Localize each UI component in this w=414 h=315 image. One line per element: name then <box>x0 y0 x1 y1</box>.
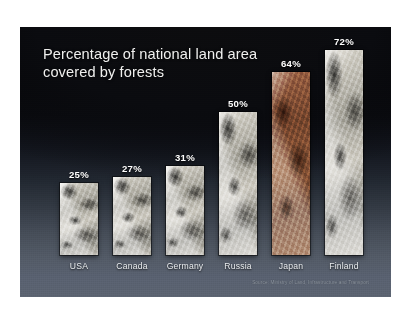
bar-value-japan: 64% <box>281 58 301 69</box>
bar-value-canada: 27% <box>122 163 142 174</box>
bar-germany[interactable] <box>166 166 204 255</box>
bar-value-usa: 25% <box>69 169 89 180</box>
bar-russia[interactable] <box>219 112 257 255</box>
bar-chart: 25% USA 27% Canada 31% Germany 50% Russi… <box>20 27 391 297</box>
presentation-slide: Percentage of national land area covered… <box>20 27 391 297</box>
bar-column-finland[interactable]: 72% <box>325 36 363 255</box>
bar-label-russia: Russia <box>219 261 257 271</box>
bar-value-russia: 50% <box>228 98 248 109</box>
bar-label-finland: Finland <box>323 261 365 271</box>
bar-value-germany: 31% <box>175 152 195 163</box>
bar-canada[interactable] <box>113 177 151 255</box>
bar-usa[interactable] <box>60 183 98 255</box>
bar-label-canada: Canada <box>113 261 151 271</box>
bar-finland[interactable] <box>325 50 363 255</box>
bar-column-germany[interactable]: 31% <box>166 152 204 255</box>
slide-photo: Percentage of national land area covered… <box>0 0 414 315</box>
bar-column-russia[interactable]: 50% <box>219 98 257 255</box>
bar-column-usa[interactable]: 25% <box>60 169 98 255</box>
bar-label-usa: USA <box>60 261 98 271</box>
bar-japan[interactable] <box>272 72 310 255</box>
bar-column-canada[interactable]: 27% <box>113 163 151 255</box>
bar-column-japan[interactable]: 64% <box>272 58 310 255</box>
bar-value-finland: 72% <box>334 36 354 47</box>
source-note: Source: Ministry of Land, Infrastructure… <box>252 280 369 285</box>
bar-label-japan: Japan <box>272 261 310 271</box>
bar-label-germany: Germany <box>163 261 207 271</box>
